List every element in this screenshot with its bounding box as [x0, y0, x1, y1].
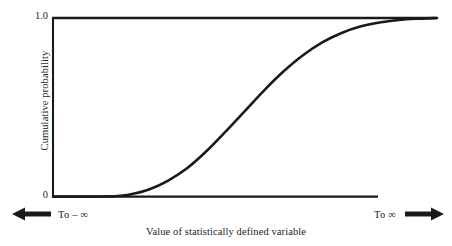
y-tick-label-bottom: 0 — [22, 190, 48, 201]
right-infinity-annotation: To ∞ — [374, 205, 444, 223]
right-arrow-icon — [404, 207, 444, 221]
right-infinity-label: To ∞ — [374, 209, 396, 220]
x-axis-label: Value of statistically defined variable — [0, 226, 452, 237]
left-infinity-annotation: To – ∞ — [12, 205, 88, 223]
cumulative-probability-figure: 1.0 0 Cumulative probability Value of st… — [0, 0, 452, 246]
left-infinity-label: To – ∞ — [58, 209, 88, 220]
left-arrow-icon — [12, 207, 52, 221]
cumulative-probability-curve — [53, 18, 437, 197]
y-axis-label: Cumulative probability — [39, 11, 50, 191]
